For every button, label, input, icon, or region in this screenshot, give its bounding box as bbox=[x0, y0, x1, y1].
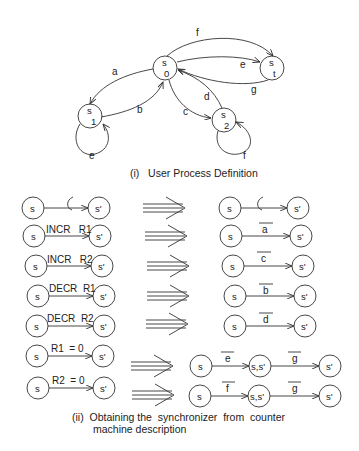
r5-left-to: s' bbox=[100, 321, 107, 332]
r5-left-label: DECR R2 bbox=[47, 313, 94, 324]
r2-left-label: INCR R1 bbox=[46, 224, 92, 235]
edge-b bbox=[101, 82, 163, 117]
s0-main: s bbox=[162, 57, 167, 68]
edge-d bbox=[178, 70, 222, 108]
r6-left-to: s' bbox=[99, 351, 106, 362]
r7-right-to: s' bbox=[326, 391, 333, 402]
edge-labels: a b c d e f g e f bbox=[89, 27, 257, 161]
r4-right-to: s' bbox=[301, 291, 308, 302]
r5-right-to: s' bbox=[301, 321, 308, 332]
r3-right-label: c bbox=[261, 253, 266, 264]
r4-right-label: b bbox=[263, 285, 269, 296]
r7-right-from: s bbox=[197, 391, 202, 402]
r4-right-from: s bbox=[232, 291, 237, 302]
r1-right-from: s bbox=[227, 203, 232, 214]
r7-right-label-2: g bbox=[292, 383, 298, 394]
s1-sub: 1 bbox=[91, 116, 96, 127]
implies-arrow-3 bbox=[147, 255, 189, 277]
st-sub: t bbox=[273, 68, 276, 79]
figure-canvas: s 0 s 1 s 2 s t a b c d e f g e f (i) Us… bbox=[0, 0, 359, 451]
implies-arrow-5 bbox=[146, 313, 188, 335]
r6-right-to: s' bbox=[326, 361, 333, 372]
implies-arrow-4 bbox=[147, 285, 189, 307]
r3-right-to: s' bbox=[299, 261, 306, 272]
r6-left-label: R1 = 0 bbox=[51, 343, 84, 354]
r6-right-label-1: e bbox=[225, 353, 231, 364]
caption-part2-line1: (ii) Obtaining the synchronizer from cou… bbox=[72, 412, 285, 423]
st-main: s bbox=[269, 57, 274, 68]
r2-right-to: s' bbox=[297, 231, 304, 242]
r6-right-mid: s,s' bbox=[251, 361, 265, 372]
caption-part1: (i) User Process Definition bbox=[130, 167, 258, 179]
r1-left-to: s' bbox=[95, 203, 102, 214]
s1-main: s bbox=[87, 105, 92, 116]
implies-arrow-7 bbox=[132, 384, 174, 406]
r6-left-from: s bbox=[34, 351, 39, 362]
s2-sub: 2 bbox=[224, 120, 229, 131]
r7-right-label-1: f bbox=[226, 383, 229, 394]
edge-a bbox=[90, 69, 153, 104]
label-f-loop: f bbox=[243, 150, 246, 161]
r5-right-label: d bbox=[263, 314, 269, 325]
state-diagram bbox=[76, 38, 284, 154]
r2-left-to: s' bbox=[96, 231, 103, 242]
label-c: c bbox=[183, 106, 188, 117]
r7-left-from: s bbox=[35, 383, 40, 394]
s2-main: s bbox=[221, 109, 226, 120]
r3-right-from: s bbox=[230, 261, 235, 272]
r6-right-from: s bbox=[198, 361, 203, 372]
s0-sub: 0 bbox=[164, 68, 169, 79]
label-g: g bbox=[251, 84, 257, 95]
r2-right-label: a bbox=[262, 224, 268, 235]
label-f: f bbox=[196, 27, 199, 38]
implies-arrow-2 bbox=[145, 225, 187, 247]
r7-left-to: s' bbox=[100, 383, 107, 394]
r7-left-label: R2 = 0 bbox=[52, 375, 85, 386]
implies-arrow-6 bbox=[131, 355, 173, 377]
edge-e bbox=[177, 57, 260, 62]
r6-right-label-2: g bbox=[292, 353, 298, 364]
r4-left-label: DECR R1 bbox=[49, 283, 96, 294]
r1-right-to: s' bbox=[294, 203, 301, 214]
caption-part2-line2: machine description bbox=[93, 424, 186, 435]
label-b: b bbox=[137, 104, 143, 115]
r1-left-from: s bbox=[30, 203, 35, 214]
r2-left-from: s bbox=[31, 231, 36, 242]
edge-f bbox=[167, 38, 273, 56]
r4-left-from: s bbox=[35, 291, 40, 302]
r7-right-mid: s,s' bbox=[250, 391, 264, 402]
r5-right-from: s bbox=[232, 321, 237, 332]
label-e: e bbox=[240, 59, 246, 70]
label-d: d bbox=[204, 91, 210, 102]
r4-left-to: s' bbox=[100, 291, 107, 302]
label-a: a bbox=[112, 66, 118, 77]
label-e-loop: e bbox=[89, 150, 95, 161]
implies-arrow-1 bbox=[143, 197, 185, 219]
r5-left-from: s bbox=[34, 321, 39, 332]
r3-left-from: s bbox=[33, 261, 38, 272]
implies-arrows bbox=[131, 197, 189, 406]
r3-left-to: s' bbox=[98, 261, 105, 272]
r3-left-label: INCR R2 bbox=[47, 254, 93, 265]
r2-right-from: s bbox=[228, 231, 233, 242]
